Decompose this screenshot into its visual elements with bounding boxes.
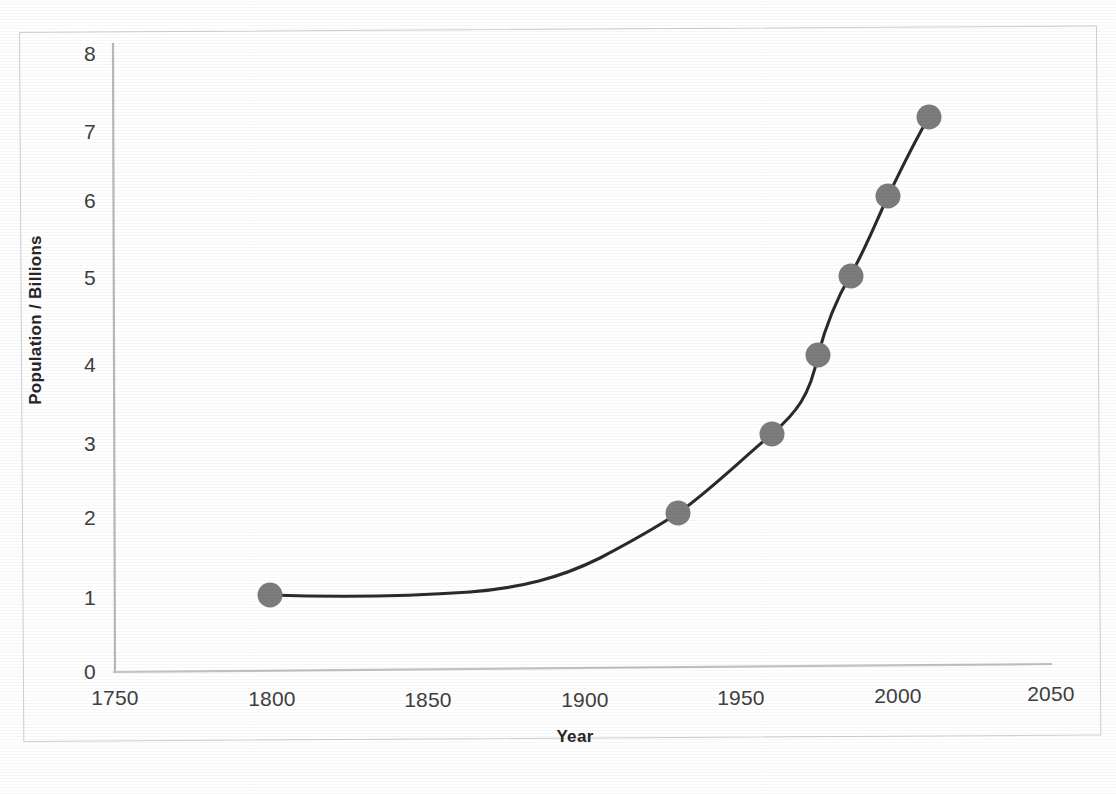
x-axis-title: Year (515, 727, 635, 747)
y-tick-label-6: 6 (62, 189, 96, 213)
y-tick-label-1: 1 (62, 586, 96, 610)
x-axis-line (113, 664, 1052, 672)
data-point-1960 (760, 422, 785, 447)
x-tick-label-1900: 1900 (540, 688, 630, 712)
data-point-2009 (917, 105, 942, 130)
plot-canvas (0, 0, 1116, 794)
chart-page: 8 7 6 5 4 3 2 1 0 1750 1800 1850 1900 19… (0, 0, 1116, 794)
x-tick-label-1950: 1950 (696, 686, 786, 710)
y-tick-label-7: 7 (62, 120, 96, 144)
data-point-1974 (806, 343, 831, 368)
y-tick-label-2: 2 (62, 506, 96, 530)
y-axis-title: Population / Billions (26, 230, 46, 410)
y-tick-label-0: 0 (62, 660, 96, 684)
x-tick-label-1850: 1850 (383, 688, 473, 712)
data-point-markers (258, 105, 942, 608)
data-point-1930 (666, 501, 691, 526)
data-point-1999 (876, 184, 901, 209)
data-point-1800 (258, 583, 283, 608)
x-tick-label-1750: 1750 (70, 686, 160, 710)
y-tick-label-8: 8 (62, 42, 96, 66)
data-point-1987 (839, 264, 864, 289)
x-tick-label-2050: 2050 (1006, 682, 1096, 706)
y-tick-label-4: 4 (62, 353, 96, 377)
y-tick-label-3: 3 (62, 432, 96, 456)
y-axis-line (113, 43, 115, 671)
y-tick-label-5: 5 (62, 266, 96, 290)
x-tick-label-1800: 1800 (227, 687, 317, 711)
population-line-chart: 8 7 6 5 4 3 2 1 0 1750 1800 1850 1900 19… (0, 0, 1116, 794)
x-tick-label-2000: 2000 (853, 684, 943, 708)
